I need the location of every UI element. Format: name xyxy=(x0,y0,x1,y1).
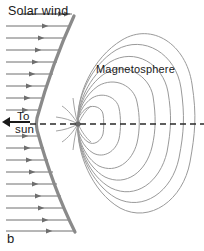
to-sun-label-line1: To xyxy=(17,111,30,123)
magnetosphere-figure: Solar wind Magnetosphere To sun b xyxy=(0,0,204,251)
panel-label: b xyxy=(7,232,14,245)
solar-wind-label: Solar wind xyxy=(8,5,68,18)
magnetosphere-label: Magnetosphere xyxy=(96,64,175,75)
earth-dipole xyxy=(75,121,80,126)
to-sun-label-line2: sun xyxy=(15,124,34,136)
